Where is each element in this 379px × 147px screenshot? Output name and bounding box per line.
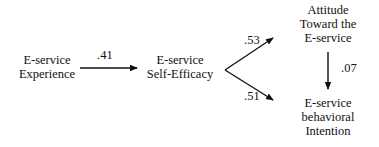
node-intention: E-service behavioral Intention [288,96,368,138]
node-self-efficacy-line-1: E-service [138,53,222,67]
coefficient-attitude-intention: .07 [341,61,357,75]
node-intention-line-1: E-service [288,96,368,110]
node-attitude: Attitude Toward the E-service [288,3,368,45]
node-attitude-line-1: Attitude [288,3,368,17]
coefficient-experience-self-efficacy: .41 [97,48,113,62]
node-intention-line-2: behavioral [288,110,368,124]
node-intention-line-3: Intention [288,124,368,138]
coefficient-self-efficacy-intention: .51 [244,89,260,103]
node-attitude-line-3: E-service [288,31,368,45]
coefficient-self-efficacy-attitude: .53 [244,33,260,47]
node-self-efficacy: E-service Self-Efficacy [138,53,222,81]
node-experience-line-2: Experience [12,67,82,81]
node-experience: E-service Experience [12,53,82,81]
node-attitude-line-2: Toward the [288,17,368,31]
node-self-efficacy-line-2: Self-Efficacy [138,67,222,81]
node-experience-line-1: E-service [12,53,82,67]
